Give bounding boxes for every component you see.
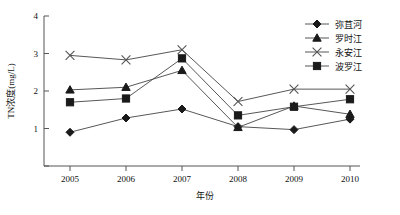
x-tick-label-2009: 2009 xyxy=(285,174,304,184)
legend-marker-triangle xyxy=(313,34,321,41)
data-point-0-0 xyxy=(66,128,74,136)
series-0 xyxy=(66,105,354,136)
series-2 xyxy=(66,45,355,106)
data-point-3-5 xyxy=(346,96,353,103)
x-tick-label-2007: 2007 xyxy=(173,174,192,184)
y-tick-label-1: 1 xyxy=(34,124,39,134)
data-point-3-1 xyxy=(122,95,129,102)
x-axis-ticks xyxy=(70,166,350,171)
x-tick-label-2006: 2006 xyxy=(117,174,136,184)
data-point-2-2 xyxy=(178,45,187,54)
chart-container: 4 3 2 1 2005 2006 2007 2008 2009 2010 年份… xyxy=(0,0,400,215)
data-point-0-2 xyxy=(178,105,186,113)
y-axis-title: TN浓度(mg/L) xyxy=(5,63,16,119)
data-point-0-4 xyxy=(290,126,298,134)
x-tick-label-2008: 2008 xyxy=(229,174,248,184)
series-line-1 xyxy=(70,70,350,127)
data-point-3-0 xyxy=(66,99,73,106)
legend-label-0: 弥苴河 xyxy=(335,19,362,30)
x-tick-label-2005: 2005 xyxy=(61,174,80,184)
series-line-2 xyxy=(70,50,350,102)
y-tick-label-4: 4 xyxy=(34,11,39,21)
legend-label-1: 罗时江 xyxy=(335,33,362,44)
line-chart: 4 3 2 1 2005 2006 2007 2008 2009 2010 年份… xyxy=(0,0,400,215)
data-point-3-4 xyxy=(290,103,297,110)
chart-legend: 弥苴河罗时江永安江波罗江 xyxy=(305,19,362,72)
data-point-2-3 xyxy=(234,97,243,106)
y-tick-label-2: 2 xyxy=(34,86,39,96)
legend-label-2: 永安江 xyxy=(335,47,362,58)
x-axis-title: 年份 xyxy=(196,190,214,201)
data-point-3-2 xyxy=(178,55,185,62)
y-axis-ticks xyxy=(44,16,49,166)
series-layer xyxy=(66,45,355,136)
series-line-3 xyxy=(70,58,350,115)
data-point-1-2 xyxy=(178,66,186,73)
legend-marker-diamond xyxy=(313,20,321,28)
legend-marker-square xyxy=(313,62,320,69)
data-point-0-1 xyxy=(122,114,130,122)
data-point-3-3 xyxy=(234,112,241,119)
legend-label-3: 波罗江 xyxy=(335,61,362,72)
x-tick-label-2010: 2010 xyxy=(341,174,360,184)
series-3 xyxy=(66,55,353,119)
series-line-0 xyxy=(70,109,350,132)
y-tick-label-3: 3 xyxy=(34,49,39,59)
